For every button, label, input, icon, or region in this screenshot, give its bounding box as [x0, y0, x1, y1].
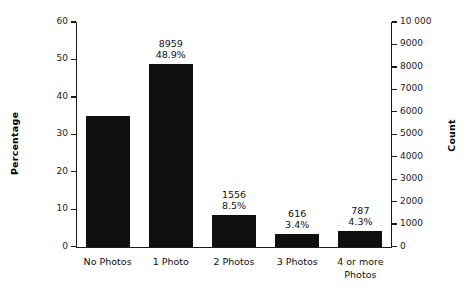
y-tick-label-right: 1000 — [400, 219, 423, 228]
y-tick-left — [71, 59, 76, 60]
y-tick-right — [392, 89, 397, 90]
y-tick-label-right: 9000 — [400, 39, 423, 48]
y-tick-label-right: 7000 — [400, 84, 423, 93]
plot-area: 0102030405060 01000200030004000500060007… — [76, 22, 392, 248]
y-tick-left — [71, 96, 76, 97]
y-tick-right — [392, 201, 397, 202]
chart-figure: Percentage Count 0102030405060 010002000… — [0, 0, 468, 297]
bar-percent-value: 48.9% — [131, 49, 211, 61]
bar-value-label: 895948.9% — [131, 38, 211, 61]
bar-value-label: 7874.3% — [320, 205, 400, 228]
y-tick-label-left: 20 — [57, 167, 68, 176]
y-tick-right — [392, 156, 397, 157]
bar-percent-value: 4.3% — [320, 216, 400, 228]
bar-count-value: 1556 — [194, 189, 274, 201]
y-tick-label-left: 40 — [57, 92, 68, 101]
y-tick-label-left: 0 — [62, 242, 68, 251]
y-tick-right — [392, 21, 397, 22]
y-tick-label-right: 5000 — [400, 129, 423, 138]
x-category-label: 4 or more Photos — [322, 256, 398, 281]
y-tick-left — [71, 134, 76, 135]
bar-count-value: 787 — [320, 205, 400, 217]
bar — [149, 64, 193, 247]
bar — [212, 215, 256, 247]
y-tick-label-right: 10 000 — [400, 17, 432, 26]
y-tick-right — [392, 66, 397, 67]
y-tick-right — [392, 179, 397, 180]
y-axis-title-right: Count — [446, 96, 457, 176]
y-tick-label-left: 60 — [57, 17, 68, 26]
y-tick-label-left: 30 — [57, 129, 68, 138]
y-tick-label-right: 2000 — [400, 197, 423, 206]
y-tick-label-right: 8000 — [400, 62, 423, 71]
y-tick-label-right: 0 — [400, 242, 406, 251]
y-tick-left — [71, 209, 76, 210]
x-axis-line — [76, 247, 392, 248]
y-tick-label-right: 4000 — [400, 152, 423, 161]
y-tick-left — [71, 246, 76, 247]
y-tick-label-left: 10 — [57, 204, 68, 213]
y-tick-label-right: 3000 — [400, 174, 423, 183]
y-tick-left — [71, 21, 76, 22]
y-tick-right — [392, 111, 397, 112]
bar — [338, 231, 382, 247]
y-axis-title-left: Percentage — [9, 104, 20, 184]
bar — [86, 116, 130, 247]
y-axis-left-line — [76, 22, 77, 248]
y-tick-label-right: 6000 — [400, 107, 423, 116]
y-tick-right — [392, 44, 397, 45]
y-tick-right — [392, 134, 397, 135]
bar-count-value: 8959 — [131, 38, 211, 50]
y-tick-label-left: 50 — [57, 54, 68, 63]
y-tick-left — [71, 171, 76, 172]
bar — [275, 234, 319, 247]
y-tick-right — [392, 246, 397, 247]
